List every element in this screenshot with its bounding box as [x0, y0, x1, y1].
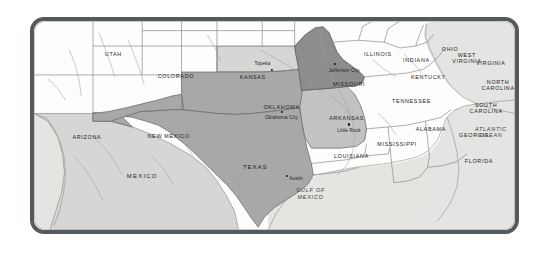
state-label-louisiana: LOUISIANA — [334, 153, 369, 159]
state-label-missouri: MISSOURI — [333, 81, 365, 87]
city-dot-topeka — [271, 69, 273, 71]
water-label-line1: GULF OF — [296, 187, 325, 193]
water-label-gulf-of-mexico: GULF OFMEXICO — [296, 187, 325, 199]
city-label-jefferson-city: Jefferson City — [329, 68, 360, 73]
state-label-south-carolina: SOUTHCAROLINA — [470, 102, 503, 114]
state-label-utah: UTAH — [105, 51, 122, 57]
state-label-line2: CAROLINA — [482, 85, 515, 91]
state-label-line2: CAROLINA — [470, 108, 503, 114]
state-label-line1: NORTH — [482, 79, 515, 85]
state-label-kentucky: KENTUCKY — [411, 74, 446, 80]
city-label-austin: Austin — [289, 175, 303, 180]
state-label-texas: TEXAS — [243, 164, 268, 170]
city-dot-jefferson-city — [334, 63, 336, 65]
map-frame: UTAHCOLORADOARIZONANEW MEXICOKANSASOKLAH… — [30, 17, 519, 234]
state-label-alabama: ALABAMA — [416, 126, 446, 132]
state-label-line1: WEST — [452, 51, 481, 57]
state-label-indiana: INDIANA — [403, 57, 430, 63]
state-label-arkansas: ARKANSAS — [329, 115, 364, 121]
city-dot-little-rock — [348, 123, 350, 125]
water-label-atlantic-ocean: ATLANTICOCEAN — [475, 126, 507, 138]
water-label-line1: ATLANTIC — [475, 126, 507, 132]
city-dot-austin — [285, 175, 287, 177]
city-label-little-rock: Little Rock — [337, 127, 361, 132]
state-label-virginia: VIRGINIA — [476, 60, 505, 66]
state-label-illinois: ILLINOIS — [364, 51, 392, 57]
state-label-north-carolina: NORTHCAROLINA — [482, 79, 515, 91]
country-label-mexico: MEXICO — [127, 173, 158, 179]
state-label-kansas: KANSAS — [240, 74, 266, 80]
state-label-mississippi: MISSISSIPPI — [377, 141, 417, 147]
city-dot-oklahoma-city — [281, 111, 283, 113]
state-label-line2: VIRGINIA — [452, 58, 481, 64]
state-label-line1: SOUTH — [470, 102, 503, 108]
state-label-oklahoma: OKLAHOMA — [264, 104, 300, 110]
city-label-topeka: Topeka — [254, 60, 270, 65]
state-label-florida: FLORIDA — [465, 158, 493, 164]
state-label-ohio: OHIO — [442, 46, 459, 52]
state-label-tennessee: TENNESSEE — [392, 98, 431, 104]
state-label-new-mexico: NEW MEXICO — [148, 133, 190, 139]
map-label-layer: UTAHCOLORADOARIZONANEW MEXICOKANSASOKLAH… — [34, 21, 515, 230]
water-label-line2: MEXICO — [296, 193, 325, 199]
state-label-arizona: ARIZONA — [72, 134, 101, 140]
city-label-oklahoma-city: Oklahoma City — [265, 115, 298, 120]
state-label-georgia: GEORGIA — [459, 132, 489, 138]
state-label-colorado: COLORADO — [158, 73, 194, 79]
water-label-line2: OCEAN — [475, 132, 507, 138]
map-figure: UTAHCOLORADOARIZONANEW MEXICOKANSASOKLAH… — [0, 0, 548, 255]
state-label-west-virginia: WESTVIRGINIA — [452, 51, 481, 63]
